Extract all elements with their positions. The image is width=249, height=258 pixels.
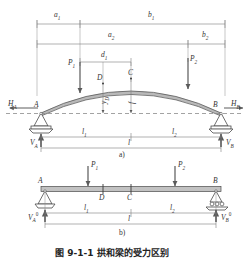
dim-label-b1: b1 xyxy=(148,11,154,21)
support-a-pin-arch xyxy=(29,112,53,133)
load-label-p2-arch: P2 xyxy=(190,55,197,65)
figure-caption-chinese: 图 9-1-1 拱和梁的受力区别 xyxy=(55,246,169,258)
reaction-label-vb: VB xyxy=(226,139,234,149)
dimension-row-a2-b2 xyxy=(37,40,225,48)
panel-b-caption: b) xyxy=(119,228,125,237)
reaction-label-hb: HB xyxy=(231,100,240,110)
span-label-l1-beam: l1 xyxy=(84,204,89,214)
span-label-l2-arch: l2 xyxy=(172,128,177,138)
span-dimensions-a xyxy=(41,133,221,152)
point-label-a-arch: A xyxy=(34,101,39,109)
rise-label-f: f xyxy=(128,102,136,104)
point-label-d-arch: D xyxy=(97,74,102,82)
span-dimensions-b xyxy=(45,209,216,228)
figure-arch-vs-beam: a1 b1 a2 b2 d1 P1 P2 D C A B HA HB VA VB… xyxy=(0,0,249,258)
point-label-d-beam: D xyxy=(99,194,104,202)
reaction-label-vb0: VB0 xyxy=(221,212,231,223)
point-label-c-arch: C xyxy=(128,69,133,77)
point-label-b-beam: B xyxy=(213,177,218,185)
dimension-row-a1-b1 xyxy=(37,20,225,28)
reaction-label-va0: VA0 xyxy=(28,212,38,223)
support-b-roller-beam xyxy=(206,190,228,210)
dim-label-a2: a2 xyxy=(108,31,114,41)
span-label-l-arch: l xyxy=(128,139,130,147)
support-b-pin-arch xyxy=(209,112,233,133)
load-label-p1-beam: P1 xyxy=(91,161,98,171)
span-label-l2-beam: l2 xyxy=(170,204,175,214)
point-label-a-beam: A xyxy=(38,177,43,185)
dim-label-d1: d1 xyxy=(101,51,107,61)
reaction-label-ha: HA xyxy=(8,100,17,110)
point-label-b-arch: B xyxy=(213,101,218,109)
dim-label-b2: b2 xyxy=(202,31,208,41)
panel-a-caption: a) xyxy=(119,150,125,159)
arch-point-markers xyxy=(102,78,132,85)
rise-label-yd: yD xyxy=(100,97,110,104)
load-label-p2-beam: P2 xyxy=(178,161,185,171)
point-label-c-beam: C xyxy=(127,194,132,202)
span-label-l-beam: l xyxy=(128,215,130,223)
load-label-p1-arch: P1 xyxy=(68,59,75,69)
span-label-l1-arch: l1 xyxy=(82,128,87,138)
reaction-label-va: VA xyxy=(30,139,38,149)
dim-label-a1: a1 xyxy=(54,11,60,21)
reaction-arrows-b xyxy=(45,210,216,222)
